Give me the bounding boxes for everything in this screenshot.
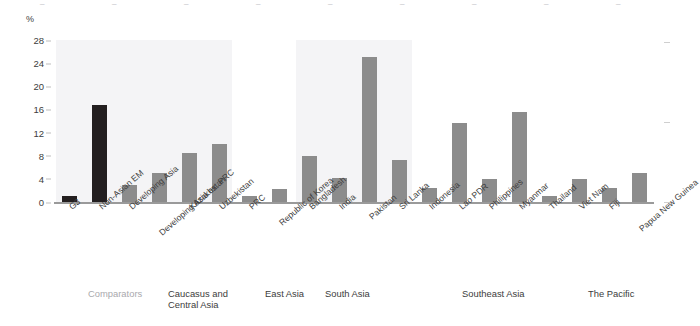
y-axis-tick-0: 0 <box>0 197 44 208</box>
y-axis-unit-label: % <box>26 14 34 24</box>
bar-pakistan <box>362 57 377 202</box>
y-axis-tick-mark <box>46 40 51 41</box>
y-axis-tick-label: 8 <box>39 150 44 161</box>
y-axis-tick-12: 12 <box>0 127 44 138</box>
y-axis-tick-mark <box>46 179 51 180</box>
plot-area <box>54 40 654 202</box>
y-axis-tick-20: 20 <box>0 81 44 92</box>
y-axis-tick-mark <box>46 133 51 134</box>
y-axis-tick-mark <box>46 156 51 157</box>
group-label-comparators: Comparators <box>88 288 142 299</box>
group-label-south-asia: South Asia <box>325 288 370 299</box>
y-axis-tick-label: 4 <box>39 173 44 184</box>
y-axis-tick-24: 24 <box>0 58 44 69</box>
y-axis-tick-label: 12 <box>33 127 44 138</box>
y-axis-tick-label: 16 <box>33 104 44 115</box>
y-axis-tick-4: 4 <box>0 173 44 184</box>
header-fragment: _ <box>256 0 260 5</box>
header-fragment: _ <box>472 0 476 5</box>
header-fragment: _ <box>184 0 188 5</box>
group-label-the-pacific: The Pacific <box>588 288 634 299</box>
cropped-header-strip: _________ <box>0 0 672 8</box>
bar-papua-new-guinea <box>632 173 647 202</box>
header-fragment: _ <box>616 0 620 5</box>
y-axis-tick-28: 28 <box>0 35 44 46</box>
bar-kazakhstan <box>182 153 197 202</box>
right-axis-tick <box>664 42 670 43</box>
bar-republic-of-korea <box>272 189 287 202</box>
y-axis-tick-16: 16 <box>0 104 44 115</box>
y-axis-tick-label: 28 <box>33 35 44 46</box>
group-label-east-asia: East Asia <box>265 288 304 299</box>
y-axis-tick-label: 24 <box>33 58 44 69</box>
group-label-southeast-asia: Southeast Asia <box>462 288 525 299</box>
y-axis-tick-mark <box>46 63 51 64</box>
right-axis-tick <box>664 122 670 123</box>
header-fragment: _ <box>112 0 116 5</box>
y-axis-tick-label: 20 <box>33 81 44 92</box>
group-label-caucasus-and: Caucasus and Central Asia <box>168 288 228 310</box>
bar-non-asian-em <box>92 105 107 202</box>
y-axis-tick-mark <box>46 109 51 110</box>
header-fragment: _ <box>40 0 44 5</box>
header-fragment: _ <box>544 0 548 5</box>
bar-series <box>54 40 654 202</box>
x-axis-label-group: G3Non-Asian EMDeveloping AsiaDeveloping … <box>54 204 654 284</box>
y-axis-tick-label: 0 <box>39 197 44 208</box>
header-fragment: _ <box>400 0 404 5</box>
y-axis-tick-8: 8 <box>0 150 44 161</box>
header-fragment: _ <box>328 0 332 5</box>
y-axis-tick-mark <box>46 86 51 87</box>
y-axis-tick-mark <box>46 202 51 203</box>
